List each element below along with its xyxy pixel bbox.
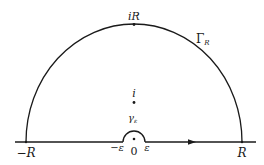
label-neg-eps: −ε (110, 142, 124, 153)
label-small-arc-sub: ε (134, 117, 137, 124)
label-right-end: R (236, 146, 246, 160)
contour-diagram: iR ΓR i γε −R R −ε 0 ε (0, 0, 264, 165)
label-top-ir: iR (128, 10, 140, 23)
top-point-dot (133, 23, 136, 26)
label-pole-i: i (132, 87, 136, 100)
direction-arrow-icon (188, 139, 196, 144)
label-left-end: −R (16, 146, 35, 160)
small-arc-gamma-eps (123, 131, 145, 142)
origin-dot (133, 138, 136, 141)
left-end-dot (25, 141, 27, 143)
label-origin: 0 (131, 145, 138, 158)
pole-dot (133, 101, 136, 104)
label-big-arc-main: Γ (196, 32, 204, 46)
right-end-dot (241, 141, 243, 143)
label-big-arc-sub: R (203, 39, 210, 47)
label-small-arc: γε (128, 112, 137, 124)
label-pos-eps: ε (144, 142, 149, 153)
label-big-arc: ΓR (196, 32, 210, 47)
